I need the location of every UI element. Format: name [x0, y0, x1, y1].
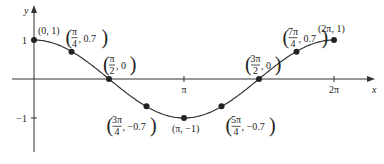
- svg-text:4: 4: [115, 126, 120, 137]
- cosine-chart: x y π2π1−1 (0, 1)(π4, 0.7)(π2, 0)(3π4, −…: [0, 0, 384, 164]
- data-point: [331, 37, 337, 43]
- x-tick-label: π: [181, 84, 186, 95]
- x-axis-label: x: [371, 84, 377, 95]
- svg-text:3π: 3π: [250, 53, 260, 64]
- svg-text:7π: 7π: [288, 26, 298, 37]
- svg-text:): ): [269, 114, 276, 137]
- svg-text:): ): [102, 26, 109, 49]
- y-tick-label: −1: [16, 113, 27, 124]
- y-axis-arrow: [31, 5, 37, 13]
- svg-text:(2π, 1): (2π, 1): [318, 23, 345, 35]
- data-point: [31, 37, 37, 43]
- point-label: (5π4, −0.7): [226, 114, 276, 137]
- svg-text:4: 4: [234, 126, 239, 137]
- data-point: [106, 76, 112, 82]
- y-tick-label: 1: [22, 35, 27, 46]
- svg-text:5π: 5π: [231, 114, 241, 125]
- point-label: (2π, 1): [318, 23, 345, 35]
- svg-text:, 0.7: , 0.7: [299, 33, 317, 44]
- point-label: (0, 1): [38, 25, 60, 37]
- x-tick-label: 2π: [329, 84, 339, 95]
- y-axis-label: y: [23, 5, 29, 16]
- point-label: (3π4, −0.7): [107, 114, 157, 137]
- svg-text:2: 2: [253, 65, 258, 76]
- data-point: [144, 103, 150, 109]
- svg-text:(π, −1): (π, −1): [172, 123, 199, 135]
- svg-text:4: 4: [291, 38, 296, 49]
- data-point: [181, 115, 187, 121]
- svg-text:π: π: [109, 53, 114, 64]
- data-point: [294, 49, 300, 55]
- svg-text:): ): [150, 114, 157, 137]
- svg-text:, 0.7: , 0.7: [79, 33, 97, 44]
- svg-text:, 0: , 0: [116, 60, 126, 71]
- point-label: (π2, 0): [103, 53, 136, 76]
- svg-text:4: 4: [72, 38, 77, 49]
- data-point: [219, 103, 225, 109]
- svg-text:(0, 1): (0, 1): [38, 25, 60, 37]
- x-axis-arrow: [367, 76, 375, 82]
- point-label: (π4, 0.7): [66, 26, 109, 49]
- svg-text:3π: 3π: [112, 114, 122, 125]
- point-label: (3π2, 0): [245, 53, 281, 76]
- svg-text:, −0.7: , −0.7: [123, 121, 146, 132]
- svg-text:): ): [275, 53, 282, 76]
- svg-text:2: 2: [110, 65, 115, 76]
- svg-text:, 0: , 0: [261, 60, 271, 71]
- data-point: [69, 49, 75, 55]
- svg-text:): ): [130, 53, 137, 76]
- svg-text:π: π: [72, 26, 77, 37]
- point-label: (π, −1): [172, 123, 199, 135]
- data-point: [256, 76, 262, 82]
- svg-text:, −0.7: , −0.7: [242, 121, 265, 132]
